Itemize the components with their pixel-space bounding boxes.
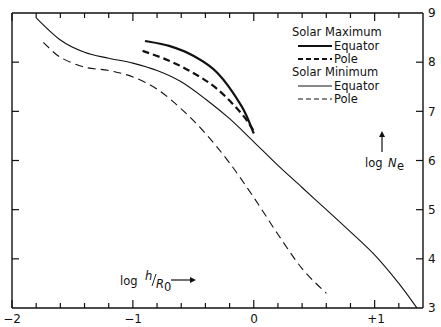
plot-frame bbox=[12, 13, 423, 308]
legend-label-min-pole: Pole bbox=[334, 92, 358, 106]
arrow-up-icon bbox=[379, 131, 385, 137]
y-axis-label: log N e bbox=[365, 131, 404, 173]
arrow-right-icon bbox=[190, 277, 196, 283]
y-tick-label: 5 bbox=[428, 203, 436, 217]
y-tick-label: 6 bbox=[428, 154, 436, 168]
x-axis-label-subscript: 0 bbox=[164, 280, 171, 294]
chart: −2 −1 0 +1 9 8 7 6 5 4 3 Solar Maximum E… bbox=[0, 0, 441, 327]
x-tick-label: −2 bbox=[3, 312, 21, 326]
series-solar-minimum-pole bbox=[43, 43, 326, 294]
series-solar-maximum-equator bbox=[145, 41, 254, 134]
y-axis-label-subscript: e bbox=[397, 159, 404, 173]
x-axis-label-h: h bbox=[145, 269, 152, 283]
y-axis-label-n: N bbox=[388, 156, 397, 170]
y-tick-label: 3 bbox=[428, 301, 436, 315]
data-series bbox=[36, 18, 417, 308]
x-axis-label-r: R bbox=[156, 277, 164, 291]
legend-label-max-equator: Equator bbox=[334, 39, 379, 53]
y-tick-label: 7 bbox=[428, 105, 436, 119]
y-tick-label: 8 bbox=[428, 55, 436, 69]
legend-title-solar-maximum: Solar Maximum bbox=[292, 25, 382, 39]
y-tick-label: 9 bbox=[428, 6, 436, 20]
x-axis-label: log h R 0 bbox=[120, 269, 196, 294]
x-tick-labels: −2 −1 0 +1 bbox=[3, 312, 385, 326]
y-tick-labels: 9 8 7 6 5 4 3 bbox=[428, 6, 436, 315]
legend-label-min-equator: Equator bbox=[334, 79, 379, 93]
series-solar-maximum-pole bbox=[143, 51, 254, 131]
legend-title-solar-minimum: Solar Minimum bbox=[292, 65, 378, 79]
x-tick-label: −1 bbox=[124, 312, 142, 326]
y-tick-label: 4 bbox=[428, 252, 436, 266]
x-axis-label-log: log bbox=[120, 274, 138, 288]
y-axis-label-log: log bbox=[365, 156, 383, 170]
legend: Solar Maximum Equator Pole Solar Minimum… bbox=[292, 25, 382, 106]
x-tick-label: 0 bbox=[250, 312, 258, 326]
x-tick-label: +1 bbox=[367, 312, 385, 326]
series-solar-minimum-equator bbox=[36, 18, 417, 308]
legend-label-max-pole: Pole bbox=[334, 52, 358, 66]
